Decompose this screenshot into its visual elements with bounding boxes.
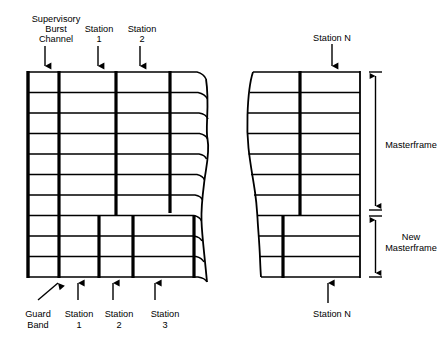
label-station-2-bottom-line2: 2 — [116, 320, 121, 330]
label-new-masterframe-line2: Masterframe — [385, 243, 437, 253]
label-station-1-bottom-line1: Station — [65, 309, 94, 319]
label-masterframe: Masterframe — [385, 140, 437, 150]
label-station-n-bottom: Station N — [313, 309, 351, 319]
frame-diagram-svg: Supervisory Burst Channel Station 1 Stat… — [0, 0, 448, 351]
label-new-masterframe-line1: New — [402, 232, 421, 242]
label-station-1-bottom-line2: 1 — [76, 320, 81, 330]
label-station-n-top: Station N — [313, 33, 351, 43]
diagram-root: Supervisory Burst Channel Station 1 Stat… — [0, 0, 448, 351]
label-station-1-top-line2: 1 — [96, 34, 101, 44]
label-supervisory-line3: Channel — [39, 34, 73, 44]
label-supervisory-line2: Burst — [45, 24, 67, 34]
label-guard-band-line2: Band — [27, 320, 48, 330]
label-station-3-bottom-line2: 3 — [162, 320, 167, 330]
label-station-2-top-line2: 2 — [139, 34, 144, 44]
canvas-background — [0, 0, 448, 351]
label-station-1-top-line1: Station — [85, 24, 114, 34]
label-station-2-bottom-line1: Station — [105, 309, 134, 319]
label-guard-band-line1: Guard — [25, 309, 51, 319]
label-supervisory-line1: Supervisory — [32, 14, 81, 24]
label-station-2-top-line1: Station — [128, 24, 157, 34]
label-station-3-bottom-line1: Station — [151, 309, 180, 319]
